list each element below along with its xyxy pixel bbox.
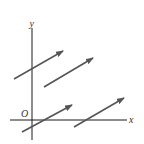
y-axis-label: y: [29, 18, 35, 29]
origin-label: O: [21, 108, 28, 119]
x-axis-label: x: [128, 114, 134, 125]
vector-arrow-2: [44, 58, 93, 87]
vector-arrow-1: [14, 51, 63, 79]
coordinate-diagram: y O x: [0, 0, 144, 144]
vector-arrow-3: [22, 105, 72, 132]
vector-arrow-4: [74, 98, 124, 127]
